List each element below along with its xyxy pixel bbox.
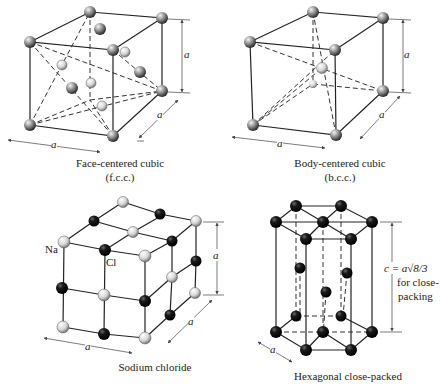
nacl-dim-label-depth: a — [188, 315, 194, 327]
bcc-title: Body-centered cubic — [275, 157, 405, 169]
bcc-dashed-lines — [250, 12, 383, 135]
nacl-bonds — [62, 202, 196, 338]
nacl-atoms — [56, 197, 202, 345]
bcc-cell — [232, 6, 411, 148]
hcp-cell — [258, 200, 402, 362]
fcc-cell — [8, 6, 190, 152]
nacl-cl-label: Cl — [106, 256, 116, 268]
hcp-height-formula: c = a√8/3 — [384, 262, 427, 274]
nacl-cell — [44, 197, 224, 354]
fcc-abbr: (f.c.c.) — [55, 171, 185, 183]
nacl-title: Sodium chloride — [95, 361, 215, 373]
bcc-atoms — [244, 6, 389, 141]
hcp-height-note-1: for close- — [397, 276, 439, 288]
fcc-dim-label-depth: a — [157, 108, 163, 120]
hcp-height-note-2: packing — [398, 290, 433, 302]
bcc-dim-label-height: a — [404, 48, 410, 60]
bcc-dim-label-width: a — [277, 137, 283, 149]
hcp-atoms — [270, 200, 378, 356]
nacl-na-label: Na — [45, 243, 58, 255]
bcc-dim-label-depth: a — [379, 108, 385, 120]
hcp-dim-label-a: a — [270, 343, 276, 355]
bcc-abbr: (b.c.c.) — [275, 171, 405, 183]
nacl-dim-label-height: a — [213, 249, 219, 261]
fcc-dim-label-height: a — [184, 48, 190, 60]
hcp-title: Hexagonal close-packed — [283, 370, 413, 382]
crystal-structures-diagram — [0, 0, 441, 385]
fcc-dim-label-width: a — [51, 138, 57, 150]
nacl-dimension-lines — [44, 222, 224, 353]
fcc-title: Face-centered cubic — [55, 157, 185, 169]
nacl-dim-label-width: a — [85, 340, 91, 352]
